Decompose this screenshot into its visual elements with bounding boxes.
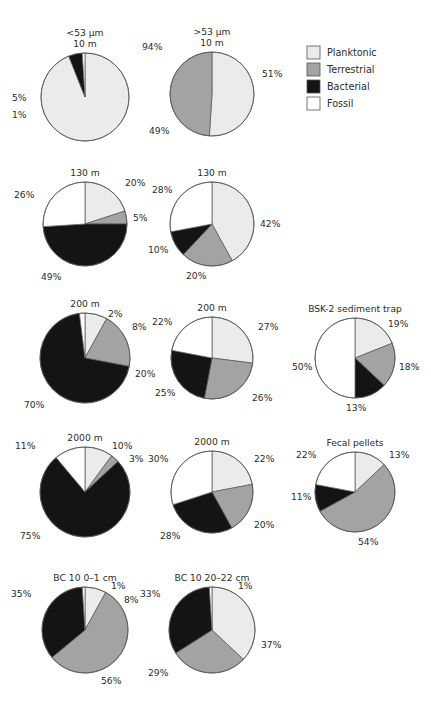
pie-percent-label: 28% [152,184,173,195]
pie-percent-label: 11% [15,440,36,451]
pie-percent-label: 51% [262,68,283,79]
legend-label-bacterial: Bacterial [327,81,370,92]
pie-percent-label: 10% [112,440,133,451]
pie-percent-label: 28% [160,530,181,541]
pie-title: <53 µm [66,27,103,38]
pie-percent-label: 29% [148,667,169,678]
pie-percent-label: 42% [260,218,281,229]
pie-percent-label: 75% [20,530,41,541]
pie-percent-label: 70% [24,399,45,410]
pie-percent-label: 35% [11,588,32,599]
pie-percent-label: 37% [261,639,282,650]
pie-percent-label: 2% [108,308,123,319]
pie-title: 200 m [197,302,226,313]
pie-title: Fecal pellets [326,437,383,448]
pie-percent-label: 20% [254,519,275,530]
pie-title: >53 µm [193,26,230,37]
pie-percent-label: 56% [101,675,122,686]
pie-percent-label: 49% [149,125,170,136]
pie-percent-label: 26% [14,189,35,200]
pie-percent-label: 27% [258,321,279,332]
pie-percent-label: 5% [133,212,148,223]
pie-title: 10 m [200,37,224,48]
pie-percent-label: 20% [186,270,207,281]
legend-label-planktonic: Planktonic [327,47,377,58]
pie-percent-label: 1% [111,580,126,591]
pie-percent-label: 13% [346,402,367,413]
legend-swatch-bacterial [307,80,320,93]
pie-percent-label: 20% [125,177,146,188]
pie-title: BSK-2 sediment trap [308,303,402,314]
legend-label-terrestrial: Terrestrial [326,64,374,75]
pie-percent-label: 94% [142,41,163,52]
pie-percent-label: 1% [12,109,27,120]
pie-percent-label: 8% [132,321,147,332]
pie-percent-label: 49% [41,271,62,282]
legend-swatch-planktonic [307,46,320,59]
pie-percent-label: 22% [152,316,173,327]
pie-title: 200 m [70,298,99,309]
pie-percent-label: 22% [254,453,275,464]
pie-percent-label: 5% [12,92,27,103]
legend-swatch-terrestrial [307,63,320,76]
pie-title: 130 m [70,167,99,178]
pie-title: 2000 m [67,432,102,443]
pie-percent-label: 54% [358,536,379,547]
legend-label-fossil: Fossil [327,98,353,109]
pie-chart-figure: <53 µm10 m94%5%1%>53 µm10 m51%49%130 m20… [0,0,431,706]
pie-title: 2000 m [194,436,229,447]
pie-percent-label: 18% [399,361,420,372]
pie-title: 130 m [197,167,226,178]
pie-percent-label: 25% [155,387,176,398]
pie-percent-label: 11% [291,491,312,502]
pie-percent-label: 13% [389,449,410,460]
pie-percent-label: 8% [124,594,139,605]
pie-percent-label: 19% [388,318,409,329]
pie-percent-label: 20% [135,368,156,379]
pie-percent-label: 3% [129,453,144,464]
pie-percent-label: 30% [148,453,169,464]
pie-percent-label: 33% [140,588,161,599]
pie-percent-label: 22% [296,449,317,460]
pie-title: BC 10 0–1 cm [53,572,116,583]
pie-percent-label: 50% [292,361,313,372]
pie-percent-label: 10% [148,244,169,255]
pie-title: 10 m [73,38,97,49]
pie-percent-label: 1% [238,580,253,591]
pie-percent-label: 26% [252,392,273,403]
legend-swatch-fossil [307,97,320,110]
